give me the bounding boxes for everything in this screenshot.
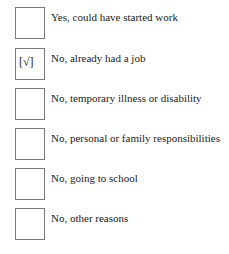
option-label: No, personal or family responsibilities <box>51 132 220 145</box>
option-label: No, other reasons <box>51 212 128 225</box>
option-no-temporary-illness[interactable]: No, temporary illness or disability <box>15 88 229 122</box>
option-no-other-reasons[interactable]: No, other reasons <box>15 208 229 242</box>
checkbox[interactable] <box>15 88 45 120</box>
checkbox[interactable] <box>15 7 45 39</box>
checkbox[interactable] <box>15 128 45 160</box>
checkbox[interactable] <box>15 168 45 200</box>
option-label: Yes, could have started work <box>51 11 178 24</box>
option-label: No, going to school <box>51 172 138 185</box>
checkbox[interactable]: [√] <box>15 48 45 80</box>
option-label: No, temporary illness or disability <box>51 92 202 105</box>
option-no-already-had-job[interactable]: [√] No, already had a job <box>15 48 229 82</box>
option-label: No, already had a job <box>51 52 145 65</box>
option-yes-could-have-started-work[interactable]: Yes, could have started work <box>15 7 229 41</box>
option-no-going-to-school[interactable]: No, going to school <box>15 168 229 202</box>
checkbox[interactable] <box>15 208 45 240</box>
option-no-personal-family[interactable]: No, personal or family responsibilities <box>15 128 229 162</box>
check-mark-icon: [√] <box>19 55 34 69</box>
